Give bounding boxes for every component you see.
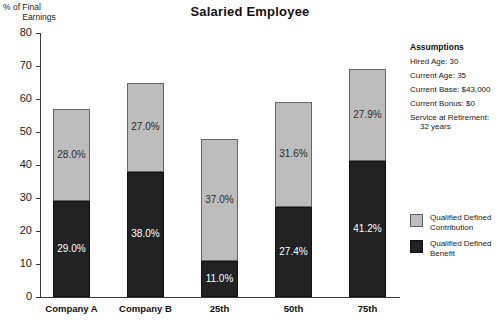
bar-company-b[interactable]: 27.0%38.0% (127, 83, 164, 298)
y-axis-tick (36, 165, 41, 166)
bar-value-label-benefit: 29.0% (54, 243, 89, 254)
y-axis-tick-label: 20 (4, 224, 32, 236)
bar-50th[interactable]: 31.6%27.4% (275, 102, 312, 297)
bar-segment-benefit[interactable]: 38.0% (127, 172, 164, 297)
legend-item[interactable]: Qualified DefinedBenefit (410, 239, 499, 258)
y-axis-tick (36, 264, 41, 265)
assumption-line: Service at Retirement:32 years (410, 113, 498, 131)
bar-value-label-benefit: 38.0% (128, 228, 163, 239)
bar-value-label-contribution: 28.0% (54, 149, 89, 160)
y-axis-tick-label: 80 (4, 26, 32, 38)
chart-legend: Qualified DefinedContributionQualified D… (410, 213, 499, 265)
y-axis-tick (36, 297, 41, 298)
legend-swatch-icon (410, 240, 423, 253)
bar-value-label-contribution: 27.0% (128, 121, 163, 132)
assumption-line: Hired Age: 30 (410, 57, 498, 66)
plot-area: 28.0%29.0%27.0%38.0%37.0%11.0%31.6%27.4%… (40, 33, 400, 297)
bar-segment-benefit[interactable]: 11.0% (201, 261, 238, 297)
bar-value-label-contribution: 37.0% (202, 194, 237, 205)
y-axis-tick-label: 40 (4, 158, 32, 170)
legend-item[interactable]: Qualified DefinedContribution (410, 213, 499, 232)
bar-segment-contribution[interactable]: 31.6% (275, 102, 312, 206)
legend-swatch-icon (410, 214, 423, 227)
assumptions-panel: Assumptions Hired Age: 30Current Age: 35… (410, 42, 498, 136)
y-axis-tick (36, 231, 41, 232)
assumption-line: Current Bonus: $0 (410, 99, 498, 108)
bar-value-label-benefit: 27.4% (276, 246, 311, 257)
y-axis-tick (36, 132, 41, 133)
x-axis-tick-label: 25th (180, 303, 260, 314)
bar-segment-contribution[interactable]: 27.0% (127, 83, 164, 172)
y-axis-label-line2: Earnings (2, 12, 76, 22)
legend-label-line2: Contribution (430, 223, 499, 233)
legend-label-line1: Qualified Defined (430, 239, 499, 249)
x-axis-line (40, 297, 400, 298)
assumption-line: Current Age: 35 (410, 71, 498, 80)
y-axis-label-line1: % of Final (2, 2, 76, 12)
y-axis-tick-label: 60 (4, 92, 32, 104)
bar-value-label-contribution: 31.6% (276, 148, 311, 159)
y-axis-tick (36, 33, 41, 34)
bar-value-label-benefit: 11.0% (202, 273, 237, 284)
y-axis-tick (36, 99, 41, 100)
bar-25th[interactable]: 37.0%11.0% (201, 139, 238, 297)
x-axis-tick-label: Company A (32, 303, 112, 314)
chart-container: Salaried Employee % of Final Earnings 01… (0, 0, 499, 325)
assumption-line-continuation: 32 years (410, 122, 498, 131)
bar-segment-benefit[interactable]: 27.4% (275, 207, 312, 297)
bar-segment-contribution[interactable]: 37.0% (201, 139, 238, 261)
bar-75th[interactable]: 27.9%41.2% (349, 69, 386, 297)
bar-segment-benefit[interactable]: 41.2% (349, 161, 386, 297)
y-axis-tick (36, 66, 41, 67)
bar-value-label-benefit: 41.2% (350, 223, 385, 234)
legend-rows: Qualified DefinedContributionQualified D… (410, 213, 499, 258)
x-axis-tick-label: 75th (328, 303, 408, 314)
legend-label-line2: Benefit (430, 249, 499, 259)
x-axis-tick-label: 50th (254, 303, 334, 314)
bar-segment-contribution[interactable]: 28.0% (53, 109, 90, 201)
y-axis-tick-label: 0 (4, 290, 32, 302)
y-axis-tick-label: 50 (4, 125, 32, 137)
bar-company-a[interactable]: 28.0%29.0% (53, 109, 90, 297)
assumptions-list: Hired Age: 30Current Age: 35Current Base… (410, 57, 498, 131)
y-axis-tick-label: 30 (4, 191, 32, 203)
y-axis-tick-label: 10 (4, 257, 32, 269)
bar-segment-contribution[interactable]: 27.9% (349, 69, 386, 161)
y-axis-tick-label: 70 (4, 59, 32, 71)
assumptions-heading: Assumptions (410, 42, 498, 52)
y-axis-label: % of Final Earnings (2, 2, 76, 22)
assumption-line: Current Base: $43,000 (410, 85, 498, 94)
legend-label-line1: Qualified Defined (430, 213, 499, 223)
bar-segment-benefit[interactable]: 29.0% (53, 201, 90, 297)
bar-value-label-contribution: 27.9% (350, 109, 385, 120)
chart-title: Salaried Employee (150, 4, 350, 19)
y-axis-tick (36, 198, 41, 199)
x-axis-tick-label: Company B (106, 303, 186, 314)
